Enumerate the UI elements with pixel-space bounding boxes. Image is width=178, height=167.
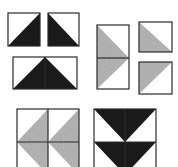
units-layer bbox=[8, 13, 172, 167]
flying-goose-dark bbox=[13, 57, 77, 89]
tall-unit-gray bbox=[97, 25, 129, 89]
hst-square-right bbox=[48, 13, 79, 46]
block-dark-arrows-down bbox=[94, 109, 156, 167]
hst-square-gray-bottom bbox=[139, 62, 172, 94]
quilt-piecing-diagram bbox=[0, 0, 178, 167]
hst-square-left bbox=[8, 13, 40, 46]
hst-square-gray-top bbox=[139, 22, 172, 52]
block-gray-arrows-left bbox=[17, 109, 79, 167]
